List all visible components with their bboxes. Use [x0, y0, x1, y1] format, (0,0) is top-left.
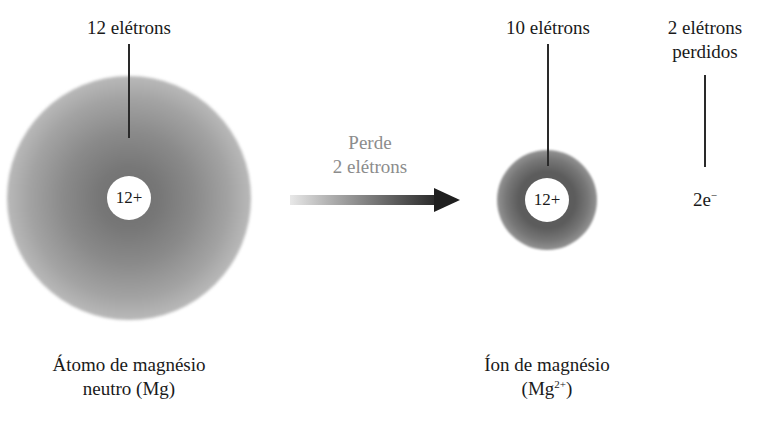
ion-caption: Íon de magnésio (Mg2+) [457, 353, 637, 401]
ion-charge-superscript: 2+ [554, 378, 566, 390]
ion-caption-line1: Íon de magnésio [457, 353, 637, 377]
process-label-line1: Perde [305, 131, 435, 155]
ion-nucleus: 12+ [525, 178, 569, 222]
lost-electrons-label-line2: perdidos [645, 40, 760, 64]
neutral-atom-caption-line2: neutro (Mg) [29, 377, 229, 401]
arrow-right-icon [434, 188, 460, 212]
electron-symbol-base: 2e [693, 189, 711, 210]
lost-electrons-label: 2 elétrons perdidos [645, 16, 760, 64]
ion-formula-close: ) [566, 378, 572, 399]
neutral-atom-nucleus: 12+ [107, 176, 151, 220]
process-label-line2: 2 elétrons [305, 155, 435, 179]
neutral-atom-caption: Átomo de magnésio neutro (Mg) [29, 353, 229, 401]
neutral-atom-caption-line1: Átomo de magnésio [29, 353, 229, 377]
ion-electron-label: 10 elétrons [488, 16, 608, 40]
neutral-atom-leader-line [128, 44, 130, 138]
ion-nucleus-charge: 12+ [534, 190, 561, 210]
process-label: Perde 2 elétrons [305, 131, 435, 179]
electron-charge-superscript: − [711, 189, 717, 201]
ion-caption-line2: (Mg2+) [457, 377, 637, 401]
neutral-atom-electron-label: 12 elétrons [69, 16, 189, 40]
ion-formula-base: (Mg [522, 378, 555, 399]
lost-electrons-symbol: 2e− [665, 188, 745, 212]
lost-electrons-leader-line [704, 75, 706, 167]
neutral-atom-nucleus-charge: 12+ [116, 188, 143, 208]
lost-electrons-label-line1: 2 elétrons [645, 16, 760, 40]
arrow-right-icon-shaft [290, 195, 435, 205]
ion-leader-line [547, 44, 549, 166]
